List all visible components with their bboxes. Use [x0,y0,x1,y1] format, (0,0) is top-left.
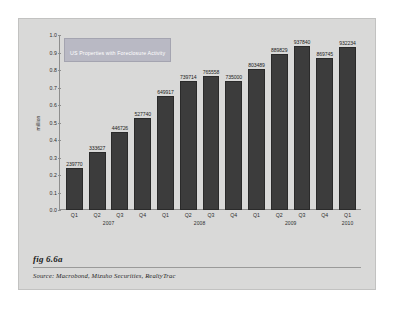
x-axis-tick-label: Q3 [291,210,314,218]
bar-slot: 889829 [268,35,291,210]
y-axis-tick: 0.3 [49,155,57,161]
y-axis-tick: 0.6 [49,102,57,108]
x-axis-tick-label: Q2 [268,210,291,218]
x-axis-tick-label: Q1 [154,210,177,218]
bar-slot: 735000 [222,35,245,210]
bar-value-label: 333627 [89,145,105,151]
x-axis-slot: Q4 [131,210,154,230]
bar-rect[interactable] [66,168,83,210]
y-axis-tick: 0.2 [49,172,57,178]
y-axis-tick: 0.8 [49,67,57,73]
caption-divider [33,267,361,268]
x-axis-tick-label: Q1 [336,210,359,218]
x-axis-tick-label: Q4 [313,210,336,218]
bar-rect[interactable] [111,132,128,210]
bar-slot: 932234 [336,35,359,210]
y-axis-tick: 0.7 [49,85,57,91]
bar-rect[interactable] [89,152,106,210]
bar-slot: 869745 [313,35,336,210]
bar-value-label: 527740 [134,111,150,117]
chart-legend: US Properties with Foreclosure Activity [64,38,171,62]
x-axis-tick-label: Q2 [86,210,109,218]
bar-value-label: 889829 [271,47,287,53]
y-axis-title: million [35,103,41,143]
x-axis-slot: Q12010 [336,210,359,230]
x-axis: Q1Q22007Q3Q4Q1Q22008Q3Q4Q1Q22009Q3Q4Q120… [60,210,361,230]
bar-chart: million 1.00.90.80.70.60.50.40.30.20.10.… [31,29,365,244]
y-axis-tick: 0.9 [49,50,57,56]
bar-value-label: 937840 [294,39,310,45]
x-axis-slot: Q3 [200,210,223,230]
bar-rect[interactable] [157,96,174,210]
figure-page: million 1.00.90.80.70.60.50.40.30.20.10.… [0,0,394,312]
bar-value-label: 649917 [157,89,173,95]
y-axis: million 1.00.90.80.70.60.50.40.30.20.10.… [31,35,59,210]
bar-rect[interactable] [271,54,288,210]
bar-value-label: 765558 [203,69,219,75]
bar-value-label: 239770 [66,161,82,167]
x-axis-slot: Q22007 [86,210,109,230]
x-axis-slot: Q4 [313,210,336,230]
y-axis-tick: 0.4 [49,137,57,143]
bar-slot: 739714 [177,35,200,210]
x-axis-tick-label: Q1 [63,210,86,218]
x-axis-slot: Q1 [154,210,177,230]
x-axis-tick-label: Q3 [109,210,132,218]
figure-number: fig 6.6a [33,254,361,267]
x-axis-tick-label: Q1 [245,210,268,218]
bar-value-label: 932234 [339,40,355,46]
x-axis-slot: Q4 [222,210,245,230]
x-axis-slot: Q1 [245,210,268,230]
figure-source: Source: Macrobond, Mizuho Securities, Re… [33,272,361,279]
x-axis-tick-label: Q2 [177,210,200,218]
bar-slot: 765558 [200,35,223,210]
figure-panel: million 1.00.90.80.70.60.50.40.30.20.10.… [18,18,376,290]
bar-rect[interactable] [248,69,265,210]
bar-rect[interactable] [316,58,333,210]
x-axis-tick-label: Q4 [222,210,245,218]
y-axis-tick: 0.0 [49,207,57,213]
bar-rect[interactable] [225,81,242,210]
y-axis-tick: 0.1 [49,190,57,196]
bar-slot: 803489 [245,35,268,210]
bar-rect[interactable] [134,118,151,210]
x-axis-tick-label: Q4 [131,210,154,218]
x-axis-slot: Q1 [63,210,86,230]
bar-rect[interactable] [294,46,311,210]
x-axis-slot: Q3 [109,210,132,230]
bar-value-label: 803489 [248,62,264,68]
bar-value-label: 446726 [112,125,128,131]
bar-value-label: 869745 [317,51,333,57]
y-axis-tick: 1.0 [49,32,57,38]
bar-rect[interactable] [339,47,356,210]
x-axis-slot: Q22008 [177,210,200,230]
bar-value-label: 739714 [180,74,196,80]
figure-caption-block: fig 6.6a Source: Macrobond, Mizuho Secur… [33,254,361,279]
bar-rect[interactable] [203,76,220,210]
y-axis-tick: 0.5 [49,120,57,126]
x-axis-year-label: 2010 [342,220,354,226]
bar-slot: 937840 [291,35,314,210]
bar-rect[interactable] [180,81,197,210]
bar-value-label: 735000 [226,74,242,80]
x-axis-slot: Q22009 [268,210,291,230]
legend-label: US Properties with Foreclosure Activity [70,50,165,56]
x-axis-slot: Q3 [291,210,314,230]
x-axis-tick-label: Q3 [200,210,223,218]
